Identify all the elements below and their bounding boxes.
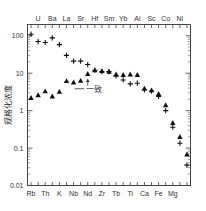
chart-svg: 1001010.10.01RbThKNbNdZrTbTiCaFeMgUBaLaS…	[0, 0, 206, 211]
y-axis-title: 规格化浓度	[3, 85, 13, 125]
bottom-axis-label: Rb	[27, 190, 36, 197]
top-axis-label: Co	[161, 15, 170, 22]
top-axis-label: Ni	[177, 15, 184, 22]
data-point-plus	[135, 81, 140, 86]
bottom-axis-label: Zr	[99, 190, 106, 197]
bottom-axis-label: Nb	[69, 190, 78, 197]
y-tick-label: 0.1	[14, 145, 24, 152]
bottom-axis-label: Th	[41, 190, 49, 197]
data-point-plus	[121, 77, 126, 82]
data-point-triangle	[156, 91, 161, 96]
data-point-triangle	[149, 87, 154, 92]
data-point-triangle	[120, 72, 125, 77]
data-point-triangle	[71, 80, 76, 85]
data-point-triangle	[170, 120, 175, 125]
data-point-plus	[184, 163, 189, 168]
y-tick-label: 100	[12, 32, 24, 39]
data-point-triangle	[99, 68, 104, 73]
top-axis-label: Yb	[119, 15, 128, 22]
y-tick-label: 0.01	[10, 182, 24, 189]
data-point-triangle	[57, 89, 62, 94]
top-axis-label: Al	[134, 15, 141, 22]
data-point-plus	[43, 40, 48, 45]
data-point-triangle	[163, 102, 168, 107]
top-axis-label: Ba	[48, 15, 57, 22]
data-point-plus	[170, 125, 175, 130]
data-point-plus	[64, 53, 69, 58]
top-axis-label: U	[36, 15, 41, 22]
data-point-triangle	[142, 86, 147, 91]
bottom-axis-label: Tb	[112, 190, 120, 197]
data-point-triangle	[85, 71, 90, 76]
annotation-label: 一致	[86, 84, 102, 94]
top-axis-label: Hf	[91, 15, 98, 22]
data-point-triangle	[135, 72, 140, 77]
bottom-axis-label: Fe	[155, 190, 163, 197]
data-point-triangle	[64, 78, 69, 83]
top-axis-label: Sr	[77, 15, 85, 22]
data-point-plus	[163, 108, 168, 113]
chart-figure: 1001010.10.01RbThKNbNdZrTbTiCaFeMgUBaLaS…	[0, 0, 206, 211]
data-point-triangle	[113, 72, 118, 77]
data-point-triangle	[50, 94, 55, 99]
data-point-triangle	[177, 134, 182, 139]
data-point-triangle	[78, 78, 83, 83]
data-point-triangle	[28, 95, 33, 100]
data-point-plus	[78, 59, 83, 64]
top-axis-label: Sc	[147, 15, 156, 22]
bottom-axis-label: Mg	[168, 190, 178, 198]
data-point-plus	[128, 81, 133, 86]
data-point-plus	[57, 42, 62, 47]
data-point-plus	[50, 35, 55, 40]
y-tick-label: 10	[16, 70, 24, 77]
bottom-axis-label: Ti	[127, 190, 133, 197]
annotation-arrowhead	[86, 79, 90, 82]
data-point-triangle	[43, 88, 48, 93]
data-point-plus	[85, 62, 90, 67]
top-axis-label: Sm	[104, 15, 115, 22]
bottom-axis-label: Nd	[83, 190, 92, 197]
data-point-plus	[71, 59, 76, 64]
bottom-axis-label: K	[57, 190, 62, 197]
top-axis-label: La	[63, 15, 71, 22]
bottom-axis-label: Ca	[140, 190, 149, 197]
data-point-plus	[177, 141, 182, 146]
data-point-triangle	[35, 92, 40, 97]
data-point-triangle	[128, 72, 133, 77]
y-tick-label: 1	[20, 107, 24, 114]
data-point-plus	[36, 39, 41, 44]
